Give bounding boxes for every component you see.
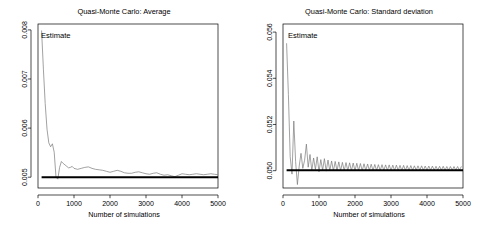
y-tick-label: 0.050 — [266, 162, 273, 180]
plot-area-average: 0100020003000400050000.0050.0060.0070.00… — [22, 21, 226, 207]
x-tick-label: 2000 — [347, 200, 363, 207]
x-tick-label: 3000 — [383, 200, 399, 207]
quasi-monte-carlo-figure: Quasi-Monte Carlo: Average 0100020003000… — [0, 0, 489, 228]
y-tick-label: 0.052 — [266, 116, 273, 134]
panel-title: Quasi-Monte Carlo: Standard deviation — [305, 7, 433, 16]
x-tick-label: 5000 — [455, 200, 471, 207]
x-tick-label: 5000 — [210, 200, 226, 207]
panel-title: Quasi-Monte Carlo: Average — [77, 7, 170, 16]
estimate-annotation: Estimate — [288, 31, 318, 40]
chart-stdev: Quasi-Monte Carlo: Standard deviation 01… — [245, 0, 489, 228]
y-tick-label: 0.006 — [22, 119, 29, 137]
x-axis-label: Number of simulations — [88, 210, 160, 219]
x-tick-label: 2000 — [102, 200, 118, 207]
x-tick-label: 0 — [36, 200, 40, 207]
y-tick-label: 0.008 — [22, 21, 29, 39]
y-tick-label: 0.005 — [22, 168, 29, 186]
plot-frame — [38, 24, 218, 188]
x-tick-label: 0 — [281, 200, 285, 207]
estimate-annotation: Estimate — [41, 31, 71, 40]
plot-frame — [283, 24, 463, 188]
estimate-series — [42, 31, 218, 179]
x-tick-label: 1000 — [66, 200, 82, 207]
y-tick-label: 0.007 — [22, 70, 29, 88]
x-tick-label: 1000 — [311, 200, 327, 207]
y-tick-label: 0.056 — [266, 23, 273, 41]
x-tick-label: 4000 — [419, 200, 435, 207]
x-axis-label: Number of simulations — [333, 210, 405, 219]
panel-average: Quasi-Monte Carlo: Average 0100020003000… — [0, 0, 245, 228]
panel-stdev: Quasi-Monte Carlo: Standard deviation 01… — [245, 0, 489, 228]
x-tick-label: 4000 — [174, 200, 190, 207]
x-tick-label: 3000 — [138, 200, 154, 207]
estimate-series — [286, 44, 461, 185]
chart-average: Quasi-Monte Carlo: Average 0100020003000… — [0, 0, 245, 228]
plot-area-stdev: 0100020003000400050000.0500.0520.0540.05… — [266, 23, 470, 207]
y-tick-label: 0.054 — [266, 69, 273, 87]
